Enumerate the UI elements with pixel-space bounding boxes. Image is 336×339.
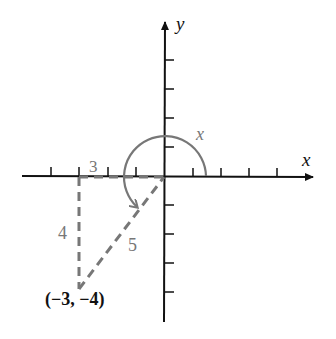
y-axis <box>164 22 165 322</box>
angle-label: x <box>195 124 204 144</box>
y-axis-label: y <box>174 13 185 34</box>
leg-label-3: 3 <box>89 157 98 176</box>
reference-triangle <box>79 177 164 289</box>
leg-label-4: 4 <box>58 223 67 243</box>
x-axis-label: x <box>301 149 311 170</box>
x-axis <box>22 176 313 177</box>
hypotenuse-label-5: 5 <box>128 235 137 255</box>
point-label: (−3, −4) <box>45 289 105 310</box>
coordinate-diagram: y x x 3 4 5 (−3, −4) <box>0 0 336 339</box>
